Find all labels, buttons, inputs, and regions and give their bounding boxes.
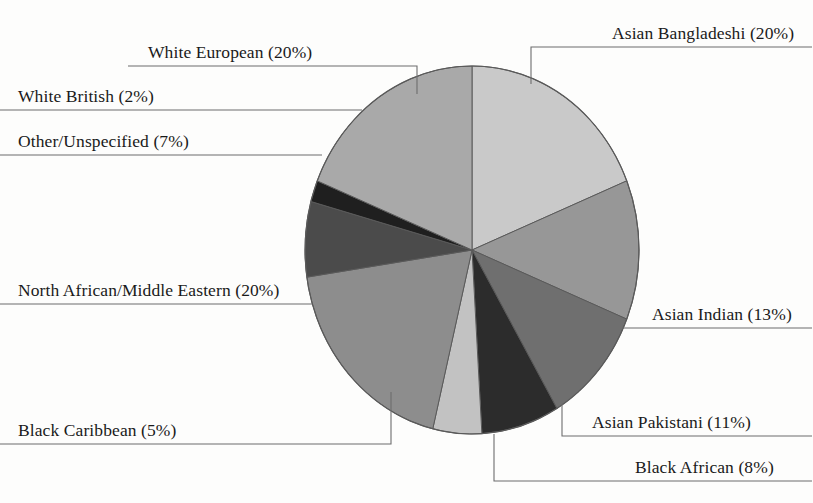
slice-label-north-african-middle-eastern: North African/Middle Eastern (20%): [18, 281, 279, 299]
slice-label-white-british: White British (2%): [18, 87, 154, 105]
slice-label-other-unspecified: Other/Unspecified (7%): [18, 132, 189, 150]
slice-label-asian-pakistani: Asian Pakistani (11%): [592, 413, 751, 431]
slice-label-white-european: White European (20%): [148, 43, 312, 61]
pie-chart-figure: Asian Bangladeshi (20%) Asian Indian (13…: [0, 0, 813, 503]
slice-label-black-caribbean: Black Caribbean (5%): [18, 421, 176, 439]
pie-slice-group: [305, 66, 639, 434]
leader-line-white-european: [128, 66, 417, 94]
slice-label-asian-indian: Asian Indian (13%): [652, 305, 792, 323]
slice-label-asian-bangladeshi: Asian Bangladeshi (20%): [612, 24, 794, 42]
leader-line-asian-bangladeshi: [531, 47, 812, 84]
slice-label-black-african: Black African (8%): [635, 458, 774, 476]
